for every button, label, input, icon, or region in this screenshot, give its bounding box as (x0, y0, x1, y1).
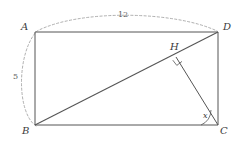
vertex-label-h: H (170, 42, 179, 52)
geometry-diagram-canvas: A B C D H 12 5 x (0, 0, 242, 144)
altitude-CH (176, 57, 218, 125)
diagonal-BD (35, 32, 218, 125)
measure-label-top-length: 12 (118, 11, 128, 19)
vertex-label-d: D (223, 22, 231, 32)
diagram-svg (0, 0, 242, 144)
vertex-label-c: C (220, 126, 228, 136)
vertex-label-a: A (21, 22, 28, 32)
angle-label-x: x (203, 112, 208, 120)
measure-label-left-length: 5 (13, 73, 18, 81)
vertex-label-b: B (22, 126, 29, 136)
